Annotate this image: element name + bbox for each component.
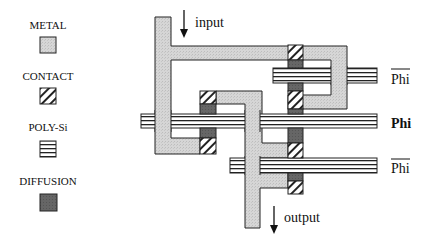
contact: [200, 138, 216, 154]
signal-phibar-bottom: Phi: [391, 159, 410, 176]
legend: METAL CONTACT POLY-Si DIFFUSION: [19, 19, 77, 211]
diffusion-swatch: [40, 194, 57, 211]
contact: [288, 143, 303, 158]
signal-phi-middle: Phi: [391, 116, 411, 131]
contact: [288, 181, 303, 194]
signal-phibar-top: Phi: [391, 69, 410, 87]
diffusion: [288, 128, 303, 143]
signal-label: Phi: [391, 161, 410, 176]
signal-label: Phi: [391, 72, 410, 87]
diffusion: [288, 83, 303, 91]
legend-label-metal: METAL: [29, 19, 66, 31]
contact: [200, 91, 216, 104]
contact: [288, 45, 303, 60]
diffusion: [288, 60, 303, 68]
output-arrow-icon: [270, 206, 278, 234]
legend-label-diffusion: DIFFUSION: [19, 175, 77, 187]
input-label: input: [195, 15, 224, 30]
legend-label-contact: CONTACT: [22, 70, 73, 82]
diffusion: [288, 109, 303, 114]
diffusion: [200, 104, 216, 114]
poly-swatch: [40, 141, 56, 157]
poly-phibar-top: [273, 68, 377, 83]
layout-diagram: METAL CONTACT POLY-Si DIFFUSION: [0, 0, 431, 245]
signal-label: Phi: [391, 116, 411, 131]
contact: [288, 91, 303, 109]
output-label: output: [284, 210, 320, 225]
contact-swatch: [40, 88, 56, 104]
metal-swatch: [40, 37, 56, 53]
diffusion: [200, 128, 216, 138]
legend-label-poly: POLY-Si: [28, 121, 67, 133]
input-arrow-icon: [180, 10, 188, 38]
diffusion: [288, 173, 303, 181]
